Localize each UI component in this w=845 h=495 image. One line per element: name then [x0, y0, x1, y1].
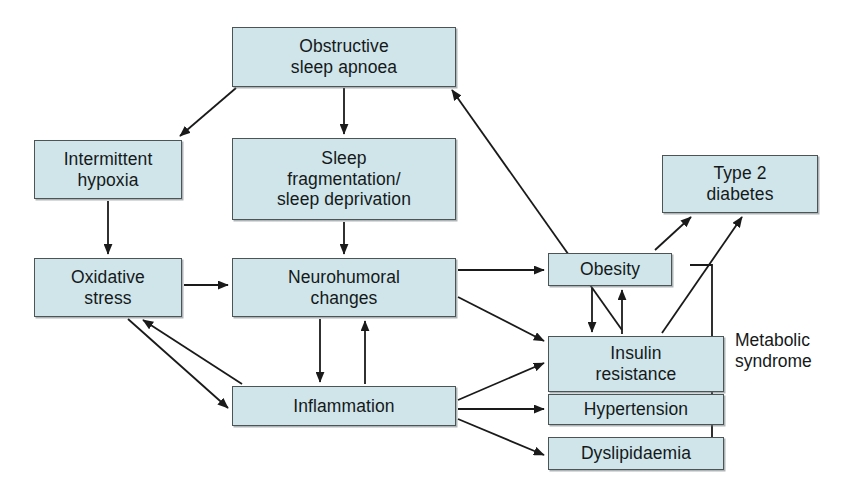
node-inflammation[interactable]: Inflammation: [232, 386, 456, 426]
edge-obesity-to-diabetes: [655, 217, 691, 250]
edge-insulin-to-diabetes: [662, 217, 742, 333]
node-obstructive-sleep-apnoea[interactable]: Obstructive sleep apnoea: [232, 27, 456, 87]
metabolic-syndrome-label: Metabolic syndrome: [735, 330, 812, 373]
edge-neuro-to-insulin: [458, 297, 544, 341]
edge-obesity-to-osa: [452, 90, 622, 330]
edge-osa-to-hypoxia: [180, 88, 236, 136]
node-intermittent-hypoxia[interactable]: Intermittent hypoxia: [34, 140, 182, 199]
node-obesity[interactable]: Obesity: [548, 253, 672, 286]
node-sleep-fragmentation[interactable]: Sleep fragmentation/ sleep deprivation: [232, 138, 456, 220]
edge-inflammation-to-oxidative: [143, 320, 242, 384]
edge-inflammation-to-insulin: [458, 363, 544, 400]
node-type-2-diabetes[interactable]: Type 2 diabetes: [662, 155, 818, 213]
edge-inflammation-to-dyslipidaemia: [458, 419, 544, 455]
node-dyslipidaemia[interactable]: Dyslipidaemia: [548, 437, 724, 470]
node-insulin-resistance[interactable]: Insulin resistance: [548, 336, 724, 392]
diagram-canvas: Obstructive sleep apnoea Intermittent hy…: [0, 0, 845, 495]
node-neurohumoral-changes[interactable]: Neurohumoral changes: [232, 258, 456, 317]
node-oxidative-stress[interactable]: Oxidative stress: [34, 258, 182, 317]
node-hypertension[interactable]: Hypertension: [548, 394, 724, 425]
edge-oxidative-to-inflammation: [128, 319, 228, 408]
